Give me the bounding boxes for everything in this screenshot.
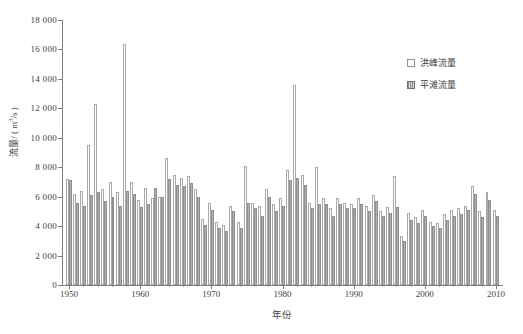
bar-bankfull-1978 [268, 197, 271, 285]
bar-bankfull-1993 [375, 201, 378, 285]
bar-bankfull-1970 [211, 210, 214, 285]
bar-bankfull-1960 [140, 207, 143, 285]
bar-bankfull-2002 [439, 228, 442, 285]
bar-bankfull-2007 [474, 194, 477, 285]
bar-bankfull-1973 [232, 211, 235, 285]
y-tick-label-6000: 6 000 [35, 193, 57, 202]
bar-bankfull-1953 [90, 195, 93, 285]
x-axis-title: 年份 [272, 310, 292, 320]
y-tick-label-12000: 12 000 [30, 104, 57, 113]
bar-bankfull-1975 [247, 203, 250, 285]
bar-bankfull-2000 [424, 216, 427, 285]
y-tick-label-10000: 10 000 [30, 134, 57, 143]
bar-bankfull-1961 [147, 204, 150, 285]
bar-bankfull-1977 [261, 216, 264, 285]
bar-bankfull-1958 [126, 191, 129, 285]
bars-layer [62, 20, 503, 285]
y-tick-6000 [58, 197, 62, 198]
bar-bankfull-1999 [417, 223, 420, 285]
x-tick-1988 [339, 285, 340, 287]
x-tick-1958 [126, 285, 127, 287]
x-tick-2008 [482, 285, 483, 287]
y-tick-18000 [58, 20, 62, 21]
y-tick-2000 [58, 256, 62, 257]
x-tick-1972 [226, 285, 227, 287]
bar-bankfull-1969 [204, 225, 207, 285]
bar-bankfull-1980 [282, 206, 285, 286]
bar-bankfull-1982 [296, 178, 299, 285]
bar-bankfull-1992 [368, 211, 371, 285]
y-tick-12000 [58, 108, 62, 109]
bar-bankfull-2005 [460, 214, 463, 285]
bar-bankfull-1979 [275, 211, 278, 285]
x-tick-1992 [368, 285, 369, 287]
y-tick-0 [58, 285, 62, 286]
x-tick-1984 [311, 285, 312, 287]
bar-bankfull-1964 [168, 179, 171, 285]
bar-bankfull-1990 [353, 208, 356, 285]
y-tick-4000 [58, 226, 62, 227]
bar-bankfull-2009 [488, 200, 491, 285]
x-tick-label-1950: 1950 [60, 290, 78, 299]
y-tick-14000 [58, 79, 62, 80]
bar-bankfull-1998 [410, 220, 413, 285]
y-axis-title-exponent: 3 [7, 119, 14, 122]
x-tick-1976 [254, 285, 255, 287]
x-tick-label-1970: 1970 [202, 290, 220, 299]
bar-bankfull-1955 [104, 201, 107, 285]
bar-bankfull-1989 [346, 208, 349, 285]
x-tick-1994 [382, 285, 383, 287]
x-tick-1962 [154, 285, 155, 287]
y-tick-label-18000: 18 000 [30, 16, 57, 25]
bar-bankfull-2004 [453, 216, 456, 285]
bar-bankfull-2008 [481, 217, 484, 285]
x-tick-label-2010: 2010 [487, 290, 505, 299]
y-tick-label-2000: 2 000 [35, 252, 57, 261]
bar-bankfull-1959 [133, 194, 136, 285]
y-tick-label-14000: 14 000 [30, 75, 57, 84]
bar-bankfull-1962 [154, 188, 157, 285]
x-tick-1986 [325, 285, 326, 287]
x-tick-1966 [183, 285, 184, 287]
bar-bankfull-1957 [119, 206, 122, 286]
bar-bankfull-1956 [112, 197, 115, 285]
bar-bankfull-2010 [496, 216, 499, 285]
x-tick-1978 [268, 285, 269, 287]
bar-bankfull-2001 [432, 226, 435, 285]
bar-bankfull-1986 [325, 204, 328, 285]
y-tick-10000 [58, 138, 62, 139]
x-tick-label-1960: 1960 [131, 290, 149, 299]
bar-bankfull-1987 [332, 216, 335, 285]
y-axis-title-prefix: 流量/ ( m [9, 122, 19, 157]
bar-bankfull-1988 [339, 204, 342, 285]
x-tick-label-1990: 1990 [345, 290, 363, 299]
x-tick-1952 [83, 285, 84, 287]
y-tick-label-8000: 8 000 [35, 163, 57, 172]
bar-bankfull-1983 [304, 185, 307, 285]
bar-bankfull-1965 [176, 185, 179, 285]
bar-bankfull-1972 [225, 231, 228, 285]
x-tick-label-1980: 1980 [274, 290, 292, 299]
bar-bankfull-1985 [318, 204, 321, 285]
bar-bankfull-1971 [218, 228, 221, 285]
y-tick-label-4000: 4 000 [35, 222, 57, 231]
bar-bankfull-1974 [240, 228, 243, 285]
bar-bankfull-1963 [161, 197, 164, 285]
bar-bankfull-1950 [69, 180, 72, 285]
x-tick-1954 [98, 285, 99, 287]
plot-area: 1950196019701980199020002010 [62, 20, 503, 285]
y-axis-title: 流量/ ( m3/s ) [5, 107, 20, 157]
bar-bankfull-1996 [396, 207, 399, 285]
y-tick-16000 [58, 49, 62, 50]
x-tick-1998 [411, 285, 412, 287]
discharge-bar-chart: 流量/ ( m3/s ) 年份 洪峰流量 平滩流量 19501960197019… [0, 0, 523, 334]
x-tick-1956 [112, 285, 113, 287]
bar-bankfull-1952 [83, 206, 86, 286]
x-tick-2006 [467, 285, 468, 287]
x-tick-2002 [439, 285, 440, 287]
bar-bankfull-1995 [389, 213, 392, 285]
bar-bankfull-1951 [76, 203, 79, 285]
bar-bankfull-2006 [467, 210, 470, 285]
bar-bankfull-1991 [360, 204, 363, 285]
y-tick-8000 [58, 167, 62, 168]
